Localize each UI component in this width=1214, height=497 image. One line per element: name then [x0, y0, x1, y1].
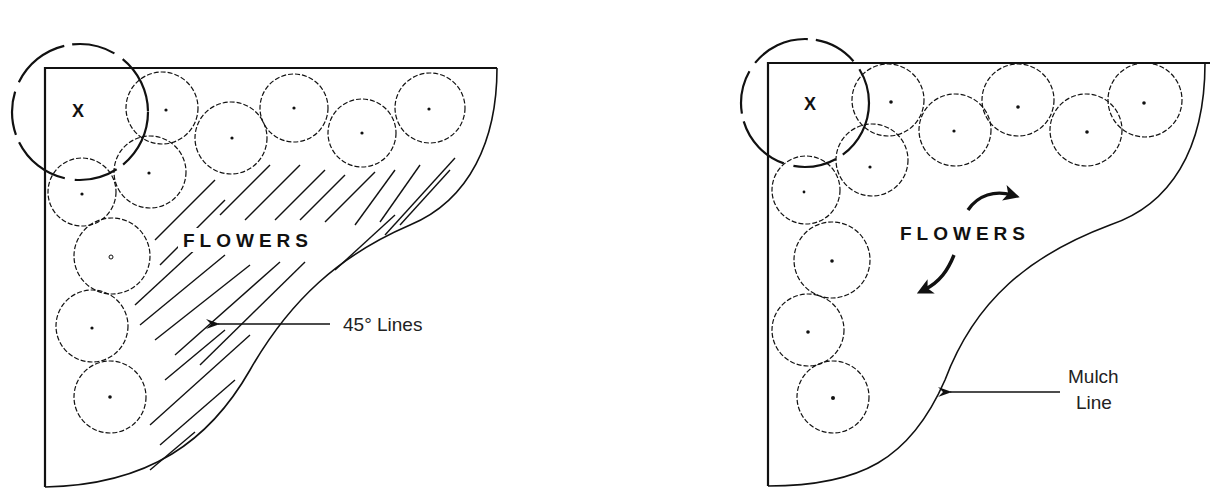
shrub: [126, 72, 198, 144]
flowers-label: FLOWERS: [183, 230, 313, 251]
shrub: [1050, 94, 1122, 166]
shrub-group: [772, 63, 1182, 433]
bed-curve-edge: [768, 63, 1205, 486]
shrub: [852, 64, 924, 136]
bed-curve-edge: [45, 68, 497, 487]
left-panel: X FLOWERS: [12, 44, 497, 487]
annotation-line: Line: [1076, 392, 1112, 413]
shrub: [48, 158, 116, 226]
curved-arrow-down-left: [924, 255, 954, 290]
shrub: [982, 64, 1054, 136]
annotation-mulch: Mulch: [1068, 366, 1119, 387]
shrub: [836, 124, 908, 196]
shrub: [1108, 63, 1182, 137]
curved-arrow-up-right: [968, 193, 1012, 210]
diagram-canvas: X FLOWERS: [0, 0, 1214, 497]
bed-border: [45, 68, 497, 487]
bed-border: [768, 63, 1210, 486]
shrub: [56, 290, 128, 362]
shrub-group: [48, 72, 465, 433]
shrub: [772, 294, 844, 366]
right-panel: X FLOWERS: [741, 39, 1210, 486]
shrub: [74, 218, 150, 294]
flowers-label: FLOWERS: [900, 223, 1030, 244]
shrub-centers: [80, 106, 430, 398]
annotation-45-lines: 45° Lines: [343, 314, 422, 335]
tree-marker: X: [804, 94, 816, 114]
tree-marker: X: [72, 101, 84, 121]
